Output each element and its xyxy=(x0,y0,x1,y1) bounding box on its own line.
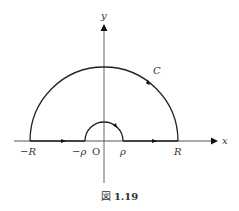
contour-diagram xyxy=(0,0,239,211)
arrow-right-segment-icon xyxy=(152,139,157,143)
arrow-small-arc-icon xyxy=(113,123,117,128)
y-axis-arrow-icon xyxy=(101,24,108,31)
figure-caption: 図 1.19 xyxy=(0,188,239,203)
arrow-left-segment-icon xyxy=(61,139,66,143)
rho-label: ρ xyxy=(120,147,126,157)
neg-R-label: −R xyxy=(20,147,36,157)
contour-label: C xyxy=(153,66,161,76)
x-axis-arrow-icon xyxy=(211,138,218,145)
neg-rho-label: −ρ xyxy=(72,147,86,157)
y-axis-label: y xyxy=(101,11,107,21)
R-label: R xyxy=(174,147,182,157)
origin-label: O xyxy=(92,147,100,157)
x-axis-label: x xyxy=(222,136,228,146)
caption-prefix: 図 xyxy=(101,191,111,202)
caption-number: 1.19 xyxy=(114,191,138,202)
